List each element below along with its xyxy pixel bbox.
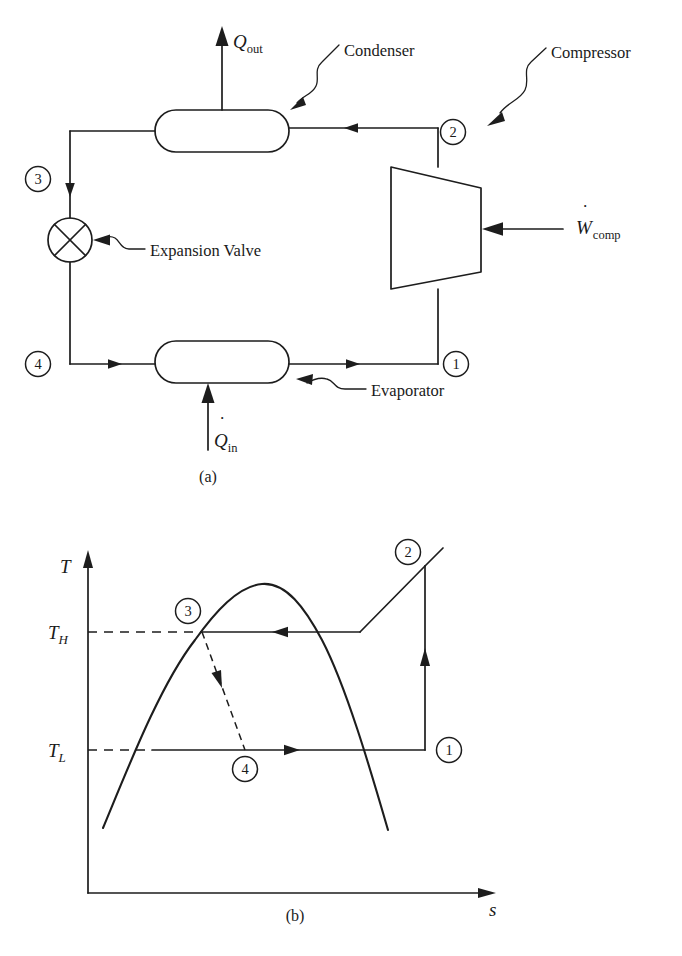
- ts-state-point-1: 1: [437, 738, 462, 763]
- state-point-3: 3: [26, 167, 51, 192]
- ts-state-point-3: 3: [176, 599, 201, 624]
- ts-state-point-4: 4: [233, 757, 258, 782]
- ts-y-axis-label: T: [60, 556, 72, 577]
- state-point-3-label: 3: [34, 171, 41, 187]
- ts-process-3-4: [202, 632, 245, 750]
- ts-arrow-2-3: [272, 627, 288, 637]
- state-point-2: 2: [441, 120, 466, 145]
- state-point-2-label: 2: [449, 124, 456, 140]
- condenser-leader-line: [297, 45, 339, 103]
- w-comp-symbol: Wcomp: [576, 217, 621, 242]
- ts-x-axis-arrowhead: [478, 888, 496, 898]
- ts-saturation-dome: [103, 584, 388, 830]
- state-point-1: 1: [444, 352, 469, 377]
- flow-arrow-left-down: [65, 183, 75, 197]
- ts-isobar-above-2: [425, 548, 443, 566]
- compressor-body: [391, 167, 481, 289]
- q-out-symbol: Qout: [233, 31, 263, 56]
- state-point-1-label: 1: [452, 356, 459, 372]
- q-in-arrowhead: [202, 383, 215, 403]
- evaporator-leader-line: [307, 378, 366, 389]
- ts-tick-tl: TL: [48, 740, 66, 765]
- ts-arrow-4-1: [284, 745, 300, 755]
- flow-arrow-bottom-right-2: [346, 359, 360, 369]
- w-comp-arrowhead: [482, 222, 503, 236]
- ts-arrow-1-2: [420, 648, 430, 666]
- expansion-valve-label: Expansion Valve: [150, 241, 261, 260]
- state-point-4: 4: [26, 352, 51, 377]
- schematic-diagram: Qout Condenser Compressor ˙ Wcomp Expans…: [0, 0, 682, 500]
- ts-state-point-4-label: 4: [241, 761, 249, 777]
- evaporator-leader-arrowhead: [296, 374, 313, 385]
- evaporator-label: Evaporator: [371, 381, 445, 400]
- evaporator-body: [155, 341, 289, 383]
- ts-tick-th: TH: [48, 622, 69, 647]
- condenser-body: [155, 110, 289, 152]
- ts-y-axis-arrowhead: [83, 550, 93, 568]
- condenser-leader-arrowhead: [290, 97, 306, 110]
- compressor-leader-line: [500, 48, 546, 113]
- ts-state-point-2: 2: [396, 540, 421, 565]
- figure-root: Qout Condenser Compressor ˙ Wcomp Expans…: [0, 0, 682, 956]
- compressor-leader-arrowhead: [487, 112, 505, 126]
- ts-diagram: T s TH TL 2: [0, 500, 682, 956]
- subcaption-b: (b): [286, 907, 305, 925]
- state-point-4-label: 4: [34, 356, 42, 372]
- ts-state-point-2-label: 2: [404, 544, 411, 560]
- ts-arrow-3-4: [212, 670, 223, 688]
- condenser-label: Condenser: [344, 41, 415, 60]
- ts-state-point-3-label: 3: [184, 603, 191, 619]
- q-out-arrowhead: [216, 26, 229, 46]
- q-in-symbol: Qin: [214, 430, 238, 455]
- flow-arrow-bottom-right-1: [108, 359, 122, 369]
- ts-superheat-2-to-dome: [360, 566, 425, 632]
- ts-state-point-1-label: 1: [445, 742, 452, 758]
- flow-arrow-top-left: [344, 123, 358, 133]
- compressor-label: Compressor: [551, 43, 631, 62]
- subcaption-a: (a): [199, 468, 217, 486]
- ts-x-axis-label: s: [489, 899, 496, 920]
- expansion-valve-leader-arrowhead: [93, 235, 110, 246]
